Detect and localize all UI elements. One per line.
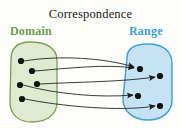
domain-shape <box>10 42 57 122</box>
domain-point <box>17 82 23 88</box>
range-point <box>137 66 143 72</box>
figure-canvas: Correspondence Domain Range <box>0 0 181 128</box>
domain-point <box>34 81 40 87</box>
domain-point <box>18 58 24 64</box>
range-point <box>157 103 163 109</box>
domain-label: Domain <box>10 24 52 39</box>
domain-point <box>29 68 35 74</box>
domain-point <box>19 96 25 102</box>
range-point <box>157 73 163 79</box>
range-point <box>135 93 141 99</box>
range-label: Range <box>129 24 163 39</box>
domain-region <box>10 42 57 122</box>
figure-title: Correspondence <box>0 7 181 22</box>
